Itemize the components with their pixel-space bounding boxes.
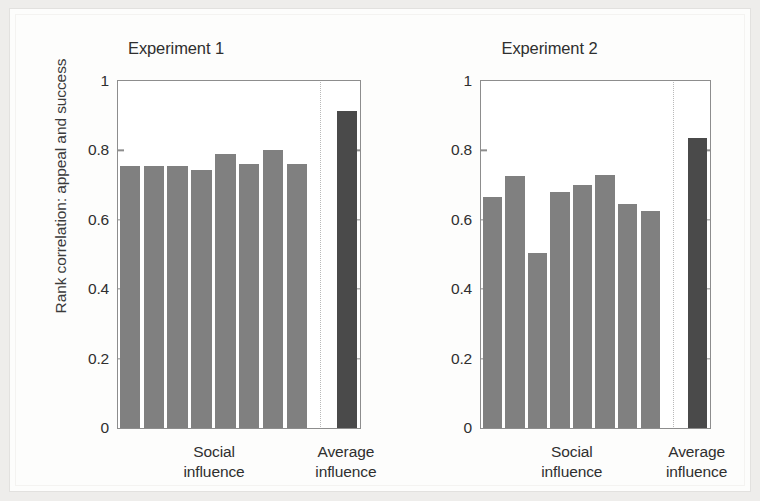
y-axis-tick-label: 0.4 — [451, 280, 472, 298]
bar-social-influence — [483, 197, 502, 428]
group-label-social-influence-line: Social — [512, 442, 632, 462]
chart-panel-experiment-1: Experiment 1 00.20.40.60.81 Socialinflue… — [10, 9, 390, 501]
y-axis-tick-mark — [481, 150, 487, 151]
group-label-average-influence: Averageinfluence — [637, 442, 757, 482]
bar-social-influence — [618, 204, 637, 428]
bar-social-influence — [191, 170, 212, 429]
group-label-social-influence-line: Social — [154, 442, 274, 462]
bar-social-influence — [144, 166, 165, 428]
y-axis-tick-label: 1 — [101, 72, 109, 90]
bar-social-influence — [641, 211, 660, 428]
bar-social-influence — [239, 164, 260, 428]
y-axis-tick-label: 0 — [464, 419, 472, 437]
group-label-social-influence-line: influence — [512, 462, 632, 482]
bar-social-influence — [528, 253, 547, 428]
y-axis-tick-label: 0.2 — [88, 350, 109, 368]
plot-area-experiment-1: 00.20.40.60.81 — [117, 80, 361, 429]
group-divider-line — [673, 82, 675, 427]
y-axis-tick-mark — [118, 150, 124, 151]
group-label-average-influence-line: influence — [637, 462, 757, 482]
bar-social-influence — [287, 164, 308, 428]
panel-title-experiment-2: Experiment 2 — [351, 39, 748, 58]
y-axis-tick-label: 0.8 — [88, 141, 109, 159]
chart-panel-experiment-2: Experiment 2 00.20.40.60.81 Socialinflue… — [373, 9, 760, 501]
bar-social-influence — [505, 176, 524, 428]
bar-social-influence — [167, 166, 188, 428]
y-axis-tick-label: 1 — [464, 72, 472, 90]
bar-social-influence — [120, 166, 141, 428]
figure-border: Rank correlation: appeal and success Exp… — [9, 8, 751, 492]
group-label-social-influence: Socialinfluence — [512, 442, 632, 482]
y-axis-tick-label: 0.6 — [451, 211, 472, 229]
y-axis-tick-label: 0 — [101, 419, 109, 437]
group-label-average-influence-line: Average — [637, 442, 757, 462]
bar-average-influence — [337, 111, 358, 429]
group-divider-line — [320, 82, 322, 427]
bar-social-influence — [573, 185, 592, 428]
bar-social-influence — [263, 150, 284, 428]
bar-social-influence — [550, 192, 569, 428]
plot-area-experiment-2: 00.20.40.60.81 — [480, 80, 711, 429]
figure-root: Rank correlation: appeal and success Exp… — [0, 0, 760, 501]
bar-social-influence — [595, 175, 614, 428]
y-axis-tick-label: 0.2 — [451, 350, 472, 368]
y-axis-tick-label: 0.6 — [88, 211, 109, 229]
y-axis-tick-label: 0.4 — [88, 280, 109, 298]
group-label-social-influence-line: influence — [154, 462, 274, 482]
panel-title-experiment-1: Experiment 1 — [0, 39, 366, 58]
bar-social-influence — [215, 154, 236, 428]
group-label-social-influence: Socialinfluence — [154, 442, 274, 482]
y-axis-tick-label: 0.8 — [451, 141, 472, 159]
bar-average-influence — [688, 138, 707, 428]
